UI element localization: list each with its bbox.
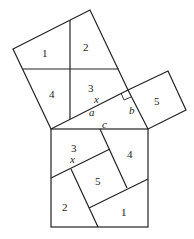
label-piece-2-top: 2 (83, 41, 89, 53)
label-piece-1-top: 1 (42, 47, 48, 59)
large-square-cut-1 (100, 129, 127, 188)
label-piece-4-top: 4 (49, 88, 55, 100)
pythagorean-diagram: 1 2 3 4 x a b 5 c 3 x 4 5 2 1 (0, 0, 194, 239)
label-piece-1-big: 1 (121, 206, 127, 218)
label-piece-5-small: 5 (154, 95, 160, 107)
large-square-cut-3 (71, 169, 98, 227)
label-b: b (129, 104, 135, 116)
label-a: a (89, 106, 95, 118)
label-piece-2-big: 2 (62, 201, 68, 213)
large-square-cut-2 (51, 149, 110, 178)
label-piece-5-big: 5 (95, 175, 101, 187)
label-c: c (102, 118, 107, 130)
label-x-top: x (93, 93, 99, 105)
label-piece-4-big: 4 (127, 148, 133, 160)
label-x-big: x (69, 153, 75, 165)
